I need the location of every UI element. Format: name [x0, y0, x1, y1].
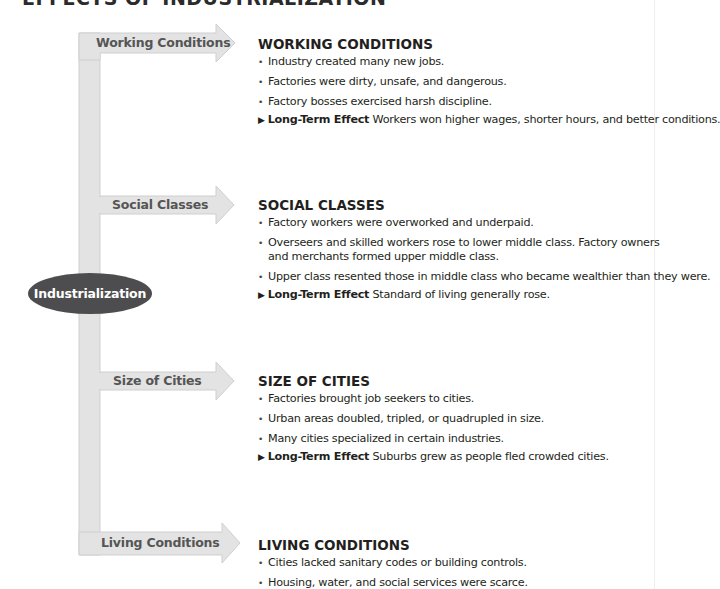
- effect-text: Suburbs grew as people fled crowded citi…: [369, 450, 609, 463]
- effect-label: Long-Term Effect: [268, 450, 370, 463]
- section-social-classes: SOCIAL CLASSES Factory workers were over…: [258, 197, 678, 302]
- list-item: Factories brought job seekers to cities.: [258, 392, 678, 406]
- bullet-list: Factories brought job seekers to cities.…: [258, 392, 678, 446]
- list-item: Factories were dirty, unsafe, and danger…: [258, 75, 678, 89]
- hub-industrialization: Industrialization: [28, 273, 152, 314]
- list-item: Many cities specialized in certain indus…: [258, 432, 678, 446]
- bullet-list: Cities lacked sanitary codes or building…: [258, 556, 678, 589]
- triangle-marker-icon: ▶: [258, 452, 265, 462]
- section-size-of-cities: SIZE OF CITIES Factories brought job see…: [258, 373, 678, 464]
- long-term-effect: ▶Long-Term Effect Workers won higher wag…: [258, 113, 678, 127]
- list-item: Upper class resented those in middle cla…: [258, 270, 678, 284]
- section-living-conditions: LIVING CONDITIONS Cities lacked sanitary…: [258, 537, 678, 589]
- branch-label-social-classes: Social Classes: [112, 197, 208, 212]
- branch-label-living-conditions: Living Conditions: [101, 535, 220, 550]
- branch-label-working-conditions: Working Conditions: [96, 35, 230, 50]
- bullet-list: Industry created many new jobs. Factorie…: [258, 55, 678, 109]
- branch-label-size-of-cities: Size of Cities: [113, 373, 202, 388]
- list-item: Housing, water, and social services were…: [258, 576, 678, 589]
- section-heading: SOCIAL CLASSES: [258, 197, 678, 213]
- effect-text: Workers won higher wages, shorter hours,…: [369, 113, 720, 126]
- list-item: Factory bosses exercised harsh disciplin…: [258, 95, 678, 109]
- section-heading: SIZE OF CITIES: [258, 373, 678, 389]
- long-term-effect: ▶Long-Term Effect Standard of living gen…: [258, 288, 678, 302]
- section-heading: LIVING CONDITIONS: [258, 537, 678, 553]
- list-item: Factory workers were overworked and unde…: [258, 216, 678, 230]
- triangle-marker-icon: ▶: [258, 290, 265, 300]
- hub-label: Industrialization: [34, 286, 146, 301]
- triangle-marker-icon: ▶: [258, 115, 265, 125]
- effect-text: Standard of living generally rose.: [369, 288, 550, 301]
- effect-label: Long-Term Effect: [268, 113, 370, 126]
- list-item: Cities lacked sanitary codes or building…: [258, 556, 678, 570]
- effect-label: Long-Term Effect: [268, 288, 370, 301]
- long-term-effect: ▶Long-Term Effect Suburbs grew as people…: [258, 450, 678, 464]
- list-item: Overseers and skilled workers rose to lo…: [258, 236, 663, 264]
- section-heading: WORKING CONDITIONS: [258, 36, 678, 52]
- list-item: Industry created many new jobs.: [258, 55, 678, 69]
- section-working-conditions: WORKING CONDITIONS Industry created many…: [258, 36, 678, 127]
- bullet-list: Factory workers were overworked and unde…: [258, 216, 678, 284]
- list-item: Urban areas doubled, tripled, or quadrup…: [258, 412, 678, 426]
